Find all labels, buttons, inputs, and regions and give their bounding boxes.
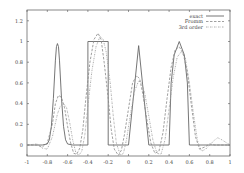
x-tick-label: 1 bbox=[228, 159, 231, 165]
x-tick-label: 0.4 bbox=[165, 159, 173, 165]
y-tick-label: 0.2 bbox=[15, 121, 23, 127]
x-tick-label: -1 bbox=[25, 159, 30, 165]
y-tick-label: 1 bbox=[20, 38, 23, 44]
x-tick-label: -0.4 bbox=[83, 159, 93, 165]
x-tick-label: -0.8 bbox=[42, 159, 52, 165]
y-tick-label: 0 bbox=[20, 142, 23, 148]
x-tick-label: -0.6 bbox=[63, 159, 73, 165]
legend-label: 3rd order bbox=[179, 24, 204, 30]
x-tick-label: 0.2 bbox=[145, 159, 153, 165]
x-tick-label: 0 bbox=[127, 159, 130, 165]
x-tick-label: -0.2 bbox=[103, 159, 113, 165]
chart: -1-0.8-0.6-0.4-0.200.20.40.60.81 00.20.4… bbox=[0, 0, 244, 173]
x-tick-label: 0.8 bbox=[206, 159, 214, 165]
y-tick-label: 0.6 bbox=[15, 80, 23, 86]
y-tick-label: 0.4 bbox=[15, 100, 23, 106]
plot-area bbox=[27, 10, 230, 156]
x-tick-label: 0.6 bbox=[185, 159, 193, 165]
y-tick-label: 0.8 bbox=[15, 59, 23, 65]
y-tick-label: 1.2 bbox=[15, 18, 23, 24]
